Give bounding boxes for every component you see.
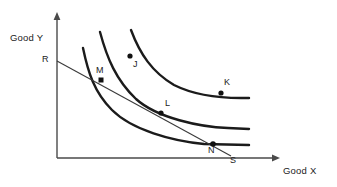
x-axis-arrowhead bbox=[272, 155, 280, 162]
point-label-l: L bbox=[165, 99, 170, 108]
point-marker-m bbox=[99, 78, 104, 83]
budget-line-rs bbox=[57, 61, 231, 156]
y-axis-title: Good Y bbox=[10, 33, 43, 43]
y-axis-arrowhead bbox=[54, 12, 61, 20]
point-marker-k bbox=[218, 90, 223, 95]
diagram-canvas bbox=[0, 0, 337, 187]
point-marker-j bbox=[127, 53, 132, 58]
point-label-n: N bbox=[208, 146, 215, 155]
point-marker-l bbox=[158, 110, 163, 115]
point-label-k: K bbox=[224, 78, 230, 87]
indifference-curve-3 bbox=[131, 30, 249, 98]
x-axis-title: Good X bbox=[283, 166, 316, 176]
indifference-curve-figure: Good Y Good X R S M J K L N bbox=[0, 0, 337, 187]
point-label-j: J bbox=[133, 60, 138, 69]
point-label-r: R bbox=[42, 55, 49, 64]
point-label-m: M bbox=[96, 66, 104, 75]
point-label-s: S bbox=[230, 156, 236, 165]
